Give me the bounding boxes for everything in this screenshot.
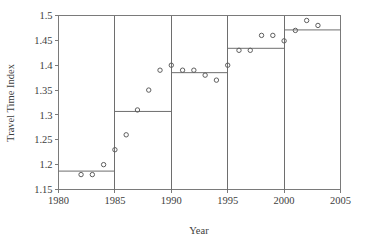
plot-frame [59, 16, 341, 190]
y-axis-title: Travel Time Index [5, 63, 16, 142]
data-point [158, 68, 162, 72]
data-point [316, 23, 320, 27]
y-tick-label: 1.45 [34, 35, 52, 46]
y-axis-tick-labels: 1.151.21.251.31.351.41.451.5 [34, 10, 53, 195]
data-point [304, 18, 308, 22]
chart-container: 1.151.21.251.31.351.41.451.5 19801985199… [0, 0, 367, 239]
data-point [214, 78, 218, 82]
data-point [192, 68, 196, 72]
y-tick-label: 1.3 [39, 110, 52, 121]
x-tick-label: 1990 [161, 195, 182, 206]
travel-time-index-chart: 1.151.21.251.31.351.41.451.5 19801985199… [0, 0, 367, 239]
x-tick-label: 1995 [217, 195, 238, 206]
x-tick-label: 1985 [104, 195, 125, 206]
y-tick-label: 1.15 [34, 184, 52, 195]
x-axis-tick-marks [59, 190, 341, 194]
y-tick-label: 1.5 [39, 10, 52, 21]
segment-mean-step-lines [59, 30, 341, 171]
data-point [124, 133, 128, 137]
breakpoint-divider-lines [115, 16, 284, 190]
data-point [79, 172, 83, 176]
data-point [101, 162, 105, 166]
data-point [147, 88, 151, 92]
data-point [90, 172, 94, 176]
y-axis-tick-marks [55, 16, 59, 190]
x-axis-tick-labels: 198019851990199520002005 [48, 195, 351, 206]
data-point [203, 73, 207, 77]
x-axis-title: Year [189, 225, 209, 236]
x-tick-label: 1980 [48, 195, 69, 206]
y-tick-label: 1.25 [34, 134, 52, 145]
x-tick-label: 2005 [330, 195, 351, 206]
x-tick-label: 2000 [274, 195, 295, 206]
y-tick-label: 1.35 [34, 85, 52, 96]
y-tick-label: 1.4 [39, 60, 53, 71]
data-point [180, 68, 184, 72]
data-point [259, 33, 263, 37]
y-tick-label: 1.2 [39, 159, 52, 170]
data-point [271, 33, 275, 37]
